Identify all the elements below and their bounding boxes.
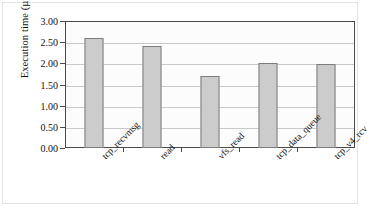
x-axis-tick-mark bbox=[297, 148, 298, 152]
y-axis-tick-label: 2.00 bbox=[12, 58, 58, 69]
bar-slot bbox=[239, 21, 297, 148]
x-axis-tick-mark bbox=[181, 148, 182, 152]
bar bbox=[317, 64, 336, 148]
x-axis-tick-mark bbox=[239, 148, 240, 152]
y-axis-tick-label: 0.50 bbox=[12, 121, 58, 132]
bar bbox=[85, 38, 104, 148]
y-axis-tick-mark bbox=[60, 148, 65, 149]
y-axis-tick-label: 2.50 bbox=[12, 37, 58, 48]
y-axis-tick-label: 1.50 bbox=[12, 79, 58, 90]
y-axis-tick-label: 1.00 bbox=[12, 100, 58, 111]
y-axis-tick-label: 3.00 bbox=[12, 16, 58, 27]
bar bbox=[259, 63, 278, 148]
bar-chart-figure: Execution time (µs) 0.000.501.001.502.00… bbox=[0, 0, 374, 216]
bar-slot bbox=[181, 21, 239, 148]
bar-slot bbox=[65, 21, 123, 148]
bar bbox=[143, 46, 162, 148]
bar bbox=[201, 76, 220, 148]
x-axis-tick-mark bbox=[123, 148, 124, 152]
y-axis-tick-label: 0.00 bbox=[12, 143, 58, 154]
